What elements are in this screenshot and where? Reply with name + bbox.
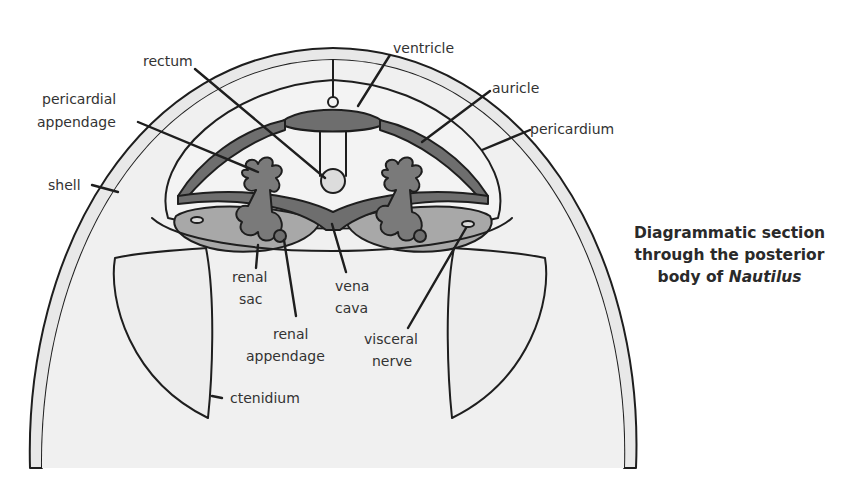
caption-species-name: Nautilus [729, 268, 802, 286]
label-pericardial-appendage-1: pericardial [42, 91, 116, 107]
label-ctenidium: ctenidium [230, 390, 300, 406]
label-shell: shell [48, 177, 81, 193]
label-renal-sac-2: sac [239, 291, 263, 307]
label-renal-sac-1: renal [232, 269, 267, 285]
label-auricle: auricle [492, 80, 539, 96]
caption-line-2: through the posterior [612, 244, 847, 266]
label-pericardium: pericardium [530, 121, 614, 137]
label-vena-cava-2: cava [335, 300, 368, 316]
label-visceral-nerve-2: nerve [372, 353, 412, 369]
caption-line-3-prefix: body of [658, 268, 729, 286]
figure-caption: Diagrammatic section through the posteri… [612, 222, 847, 288]
label-renal-appendage-2: appendage [246, 348, 325, 364]
rectum [321, 169, 345, 193]
label-rectum: rectum [143, 53, 193, 69]
label-visceral-nerve-1: visceral [364, 331, 418, 347]
label-vena-cava-1: vena [335, 278, 369, 294]
caption-line-3: body of Nautilus [612, 266, 847, 288]
label-renal-appendage-1: renal [273, 326, 308, 342]
visceral-nerve [462, 221, 474, 227]
label-pericardial-appendage-2: appendage [37, 114, 116, 130]
caption-line-1: Diagrammatic section [612, 222, 847, 244]
label-ventricle: ventricle [393, 40, 454, 56]
